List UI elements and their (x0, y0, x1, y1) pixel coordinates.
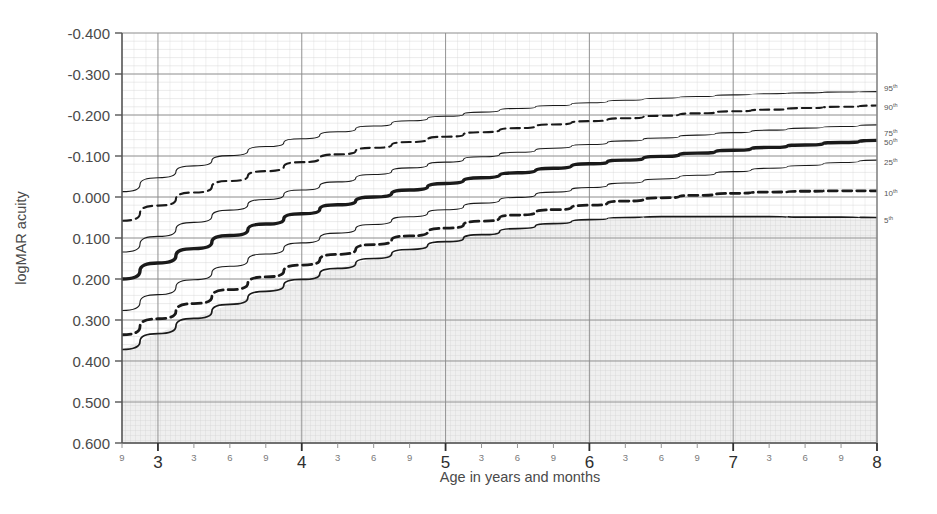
y-tick-label: 0.100 (72, 230, 110, 247)
chart-root: -0.400-0.300-0.200-0.1000.0000.1000.2000… (0, 0, 937, 514)
x-tick-month: 9 (407, 452, 412, 463)
x-tick-year: 7 (728, 453, 737, 472)
x-tick-month: 6 (802, 452, 807, 463)
x-tick-month: 9 (263, 452, 268, 463)
x-axis-title: Age in years and months (440, 469, 600, 485)
percentile-label-25: 25th (884, 157, 898, 167)
x-tick-month: 3 (191, 452, 196, 463)
x-tick-month: 3 (766, 452, 771, 463)
percentile-labels: 95th90th75th50th25th10th5th (884, 83, 898, 225)
growth-chart-svg: -0.400-0.300-0.200-0.1000.0000.1000.2000… (0, 0, 937, 514)
x-tick-month: 3 (623, 452, 628, 463)
svg-text:25th: 25th (884, 157, 898, 167)
x-tick-month: 9 (838, 452, 843, 463)
x-tick-month: 6 (659, 452, 664, 463)
percentile-label-50: 50th (884, 137, 898, 147)
svg-text:50th: 50th (884, 137, 898, 147)
svg-text:10th: 10th (884, 188, 898, 198)
svg-text:90th: 90th (884, 102, 898, 112)
x-tick-month: 3 (335, 452, 340, 463)
y-tick-label: 0.200 (72, 271, 110, 288)
y-tick-label: 0.600 (72, 435, 110, 452)
y-tick-label: 0.500 (72, 394, 110, 411)
y-tick-label: 0.000 (72, 189, 110, 206)
percentile-label-95: 95th (884, 83, 898, 93)
y-axis-ticks: -0.400-0.300-0.200-0.1000.0000.1000.2000… (67, 25, 122, 452)
svg-text:75th: 75th (884, 128, 898, 138)
percentile-label-90: 90th (884, 102, 898, 112)
percentile-label-75: 75th (884, 128, 898, 138)
x-tick-month: 3 (479, 452, 484, 463)
y-tick-label: 0.400 (72, 353, 110, 370)
x-tick-month: 6 (227, 452, 232, 463)
y-tick-label: -0.300 (67, 66, 110, 83)
x-tick-month: 9 (119, 452, 124, 463)
x-axis-ticks: 3456789369369369369369 (119, 443, 881, 472)
y-tick-label: -0.400 (67, 25, 110, 42)
svg-text:5th: 5th (884, 215, 893, 225)
y-tick-label: -0.100 (67, 148, 110, 165)
x-tick-year: 4 (297, 453, 306, 472)
percentile-label-5: 5th (884, 215, 893, 225)
x-tick-year: 3 (153, 453, 162, 472)
x-tick-month: 6 (371, 452, 376, 463)
y-tick-label: -0.200 (67, 107, 110, 124)
percentile-label-10: 10th (884, 188, 898, 198)
y-axis-title: logMAR acuity (13, 191, 29, 285)
x-tick-month: 6 (515, 452, 520, 463)
y-tick-label: 0.300 (72, 312, 110, 329)
x-tick-month: 9 (695, 452, 700, 463)
x-tick-year: 8 (872, 453, 881, 472)
x-tick-month: 9 (551, 452, 556, 463)
svg-text:95th: 95th (884, 83, 898, 93)
